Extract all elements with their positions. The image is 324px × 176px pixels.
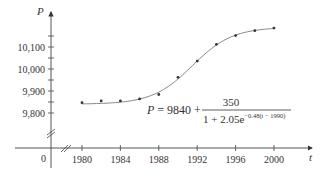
data-point [215, 43, 218, 46]
data-point [138, 98, 141, 101]
origin-label: 0 [41, 153, 46, 164]
y-tick-label: 10,000 [18, 64, 46, 75]
data-point [100, 100, 103, 103]
data-points [81, 27, 276, 104]
x-tick-label: 2000 [264, 154, 284, 165]
formula-numerator: 350 [223, 96, 240, 108]
data-point [81, 101, 84, 104]
logistic-curve [82, 28, 274, 103]
y-tick-label: 9,800 [23, 108, 46, 119]
data-point [273, 27, 276, 30]
x-tick-label: 1996 [226, 154, 246, 165]
x-tick-label: 1980 [72, 154, 92, 165]
formula-lhs: P = 9840 + [146, 103, 201, 117]
y-axis-label: P [36, 5, 44, 17]
formula-denominator: 1 + 2.05e−0.48(t − 1990) [203, 112, 285, 125]
y-tick-label: 9,900 [23, 86, 46, 97]
x-axis-label: t [309, 151, 313, 163]
y-tick-label: 10,100 [18, 42, 46, 53]
x-tick-label: 1992 [187, 154, 207, 165]
data-point [196, 60, 199, 63]
data-point [253, 29, 256, 32]
y-axis: P 9,8009,90010,00010,100 [18, 5, 56, 168]
x-tick-label: 1988 [149, 154, 169, 165]
x-tick-label: 1984 [110, 154, 130, 165]
data-point [234, 34, 237, 37]
data-point [157, 93, 160, 96]
x-axis-break-icon [61, 145, 71, 152]
data-point [119, 100, 122, 103]
data-point [177, 76, 180, 79]
x-axis: t 0 198019841988199219962000 [15, 145, 313, 165]
logistic-population-chart: P 9,8009,90010,00010,100 t 0 19801984198… [0, 0, 324, 176]
formula-annotation: P = 9840 + 350 1 + 2.05e−0.48(t − 1990) [146, 96, 291, 125]
